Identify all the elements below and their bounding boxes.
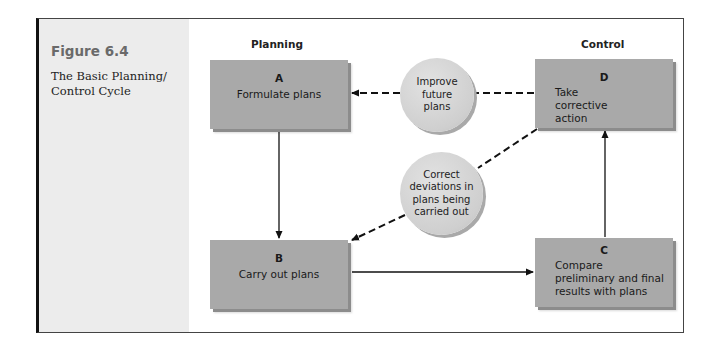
box-b-text: Carry out plans xyxy=(210,268,348,281)
box-c-letter: C xyxy=(535,244,673,256)
dashed-d-to-correct xyxy=(478,129,537,168)
box-b-carry-out-plans: B Carry out plans xyxy=(210,240,348,309)
planning-heading: Planning xyxy=(251,38,303,50)
box-d-take-corrective-action: D Take corrective action xyxy=(535,59,673,128)
circle-correct-deviations: Correct deviations in plans being carrie… xyxy=(400,152,483,235)
box-d-letter: D xyxy=(535,71,673,83)
box-c-text: Compare preliminary and final results wi… xyxy=(535,259,673,298)
circle-improve-text: Improve future plans xyxy=(410,76,464,114)
dashed-correct-to-b xyxy=(352,215,405,240)
box-a-text: Formulate plans xyxy=(210,88,348,101)
box-a-formulate-plans: A Formulate plans xyxy=(210,60,348,129)
circle-improve-future-plans: Improve future plans xyxy=(400,58,474,132)
box-c-compare-results: C Compare preliminary and final results … xyxy=(535,238,673,307)
control-heading: Control xyxy=(581,38,624,50)
box-b-letter: B xyxy=(210,252,348,264)
box-a-letter: A xyxy=(210,72,348,84)
box-d-text: Take corrective action xyxy=(535,86,673,125)
circle-correct-text: Correct deviations in plans being carrie… xyxy=(405,169,479,219)
